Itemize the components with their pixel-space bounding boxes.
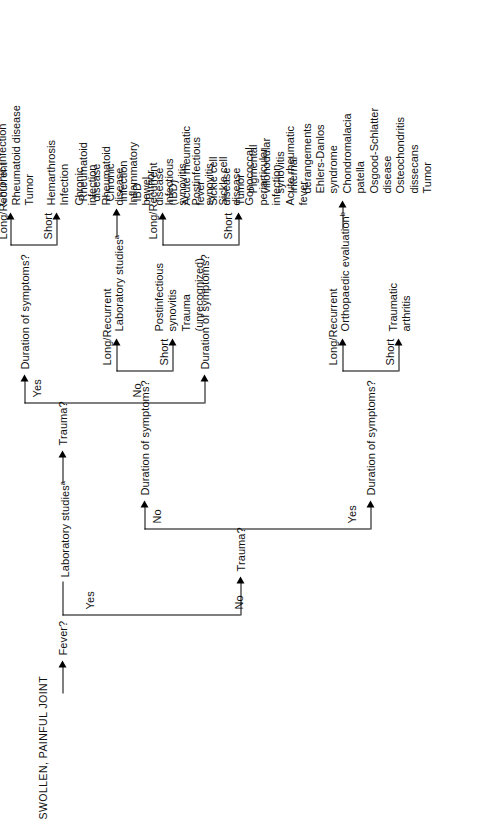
- lab-right-to-outcomes-arrow: [112, 208, 120, 215]
- outcome-line: infection: [116, 142, 129, 201]
- duration-3-short-label: Short: [383, 338, 395, 365]
- fever-split-trunk: [62, 614, 240, 615]
- outcome-line: Ehlers-Danlos: [313, 107, 326, 193]
- fever-no-label: No: [232, 595, 244, 609]
- duration-2-trunk: [162, 244, 238, 245]
- outcome-fever-yes-trauma-yes-long: Hemophilia Chronic infection Rheumatoid …: [0, 105, 36, 205]
- outcome-line: Sickle cell: [206, 126, 219, 205]
- outcome-line: Chondromalacia: [340, 107, 353, 193]
- outcome-line: syndrome: [326, 107, 339, 193]
- trauma-right-yes-arrow: [366, 500, 374, 507]
- outcome-fever-no-trauma-yes-long: Pigmental villonodular synovitis Interna…: [246, 107, 434, 193]
- lab-right-to-outcomes-line: [116, 213, 117, 237]
- trauma-right-yes-label: Yes: [345, 505, 357, 523]
- outcome-fever-yes-trauma-yes-short: Hemarthrosis Infection: [44, 140, 71, 205]
- root-arrow-line: [62, 665, 63, 693]
- flowchart-canvas: SWOLLEN, PAINFUL JOINT Fever? Yes Labora…: [0, 0, 489, 837]
- fever-yes-label: Yes: [83, 591, 95, 609]
- lab-studies-left-text: Laboratory studies: [59, 485, 71, 577]
- duration-1-short-line: [56, 217, 57, 245]
- lab-studies-right-label: Laboratory studiesa: [110, 234, 125, 331]
- duration-q-4: Duration of symptoms?: [138, 380, 150, 495]
- ortho-evaluation-footnote: b: [337, 211, 346, 215]
- outcome-fever-no-trauma-no-short: Postinfectious synovitis Trauma (unrecog…: [152, 258, 206, 331]
- trauma-right-no-riser: [144, 528, 240, 529]
- outcome-line: Traumatic: [386, 283, 399, 332]
- trauma-right-no-label: No: [150, 509, 162, 523]
- ortho-to-outcomes-arrow: [338, 200, 346, 207]
- outcome-line: Postinfectious: [152, 258, 165, 331]
- trauma-left-yes-riser: [24, 402, 62, 403]
- outcome-line: Acute rheumatic: [179, 126, 192, 205]
- duration-1-short-label: Short: [41, 212, 53, 239]
- duration-1-trunk: [10, 244, 56, 245]
- duration-q-3: Duration of symptoms?: [364, 380, 376, 495]
- duration-3-long-line: [342, 343, 343, 371]
- duration-2-short-label: Short: [221, 212, 233, 239]
- ortho-evaluation-text: Orthopaedic evaluation: [339, 216, 351, 331]
- fever-yes-line: [62, 581, 63, 615]
- duration-4-long-arrow: [112, 338, 120, 345]
- outcome-line: IBD: [130, 142, 143, 201]
- outcome-line: disease: [89, 142, 102, 201]
- duration-4-long-line: [116, 343, 117, 371]
- lab-studies-left-footnote: a: [57, 480, 66, 484]
- outcome-line: Tumor: [143, 142, 156, 201]
- outcome-line: synovitis: [273, 107, 286, 193]
- outcome-line: Osteochondritis: [393, 107, 406, 193]
- duration-4-short-label: Short: [157, 338, 169, 365]
- duration-2-short-line: [238, 217, 239, 245]
- lab-left-to-trauma-line: [62, 455, 63, 483]
- outcome-line: dissecans: [407, 107, 420, 193]
- outcome-line: synovitis: [165, 258, 178, 331]
- lab-studies-right-text: Laboratory studies: [113, 239, 125, 331]
- outcome-line: (unrecognized): [192, 258, 205, 331]
- outcome-line: Chronic: [103, 142, 116, 201]
- duration-4-trunk: [116, 370, 172, 371]
- decision-fever-label: Fever?: [56, 620, 68, 655]
- trauma-left-yes-line: [24, 379, 25, 403]
- duration-2-long-arrow: [158, 212, 166, 219]
- decision-trauma-left-label: Trauma?: [56, 401, 68, 445]
- root-title: SWOLLEN, PAINFUL JOINT: [36, 675, 48, 819]
- duration-2-short-arrow: [234, 212, 242, 219]
- outcome-line: Internal: [286, 107, 299, 193]
- outcome-line: arthritis: [399, 283, 412, 332]
- outcome-line: Rheumatoid: [76, 142, 89, 201]
- outcome-line: patella: [353, 107, 366, 193]
- trauma-left-no-line: [204, 379, 205, 403]
- trauma-right-no-line: [144, 505, 145, 529]
- trauma-right-yes-line: [370, 505, 371, 529]
- outcome-line: Trauma: [179, 258, 192, 331]
- outcome-fever-no-trauma-yes-short: Traumatic arthritis: [386, 283, 413, 332]
- trauma-left-yes-label: Yes: [30, 379, 42, 397]
- outcome-line: Rheumatoid disease: [9, 105, 22, 205]
- outcome-line: villonodular: [259, 107, 272, 193]
- lab-studies-right-footnote: a: [111, 234, 120, 238]
- duration-1-short-arrow: [52, 212, 60, 219]
- lab-studies-left-label: Laboratory studiesa: [56, 480, 71, 577]
- fever-no-line: [240, 581, 241, 615]
- duration-3-trunk: [342, 370, 398, 371]
- outcome-line: disease: [219, 126, 232, 205]
- trauma-left-split-trunk: [62, 402, 204, 403]
- duration-q-1: Duration of symptoms?: [18, 254, 30, 369]
- duration-3-long-arrow: [338, 338, 346, 345]
- outcome-line: (IBD): [166, 126, 179, 205]
- duration-1-long-line: [10, 217, 11, 245]
- outcome-line: Hemarthrosis: [44, 140, 57, 205]
- trauma-right-no-arrow: [140, 500, 148, 507]
- decision-trauma-right-label: Trauma?: [234, 527, 246, 571]
- outcome-line: Chronic infection: [0, 105, 9, 205]
- trauma-left-yes-arrow: [20, 374, 28, 381]
- outcome-line: fever: [193, 126, 206, 205]
- fever-no-arrow: [236, 576, 244, 583]
- duration-3-short-arrow: [394, 338, 402, 345]
- outcome-line: Osgood-Schlatter: [367, 107, 380, 193]
- duration-1-long-arrow: [6, 212, 14, 219]
- duration-3-short-line: [398, 343, 399, 371]
- outcome-line: disease: [380, 107, 393, 193]
- lab-left-to-trauma-arrow: [58, 450, 66, 457]
- outcome-line: Tumor: [22, 105, 35, 205]
- outcome-line: Tumor: [420, 107, 433, 193]
